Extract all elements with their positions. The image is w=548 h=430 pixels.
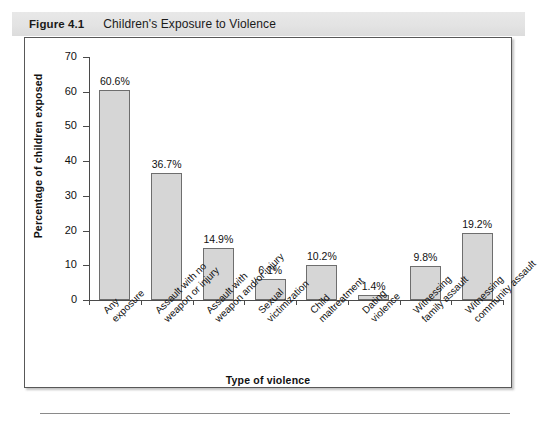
figure-title: Children's Exposure to Violence (103, 17, 276, 31)
y-axis-line (89, 57, 90, 300)
bar-value-label: 19.2% (462, 218, 492, 230)
x-axis-tick (89, 300, 90, 305)
y-axis-tick (83, 265, 89, 266)
y-axis-tick-label: 50 (29, 119, 77, 131)
figure-caption-band: Figure 4.1 Children's Exposure to Violen… (12, 12, 525, 36)
bar-value-label: 10.2% (307, 250, 337, 262)
y-axis-tick-label: 10 (29, 258, 77, 270)
bar (151, 173, 182, 300)
y-axis-tick-label: 20 (29, 224, 77, 236)
y-axis-tick (83, 57, 89, 58)
bar (99, 90, 130, 300)
bar-value-label: 36.7% (152, 158, 182, 170)
bar-value-label: 9.8% (413, 251, 437, 263)
figure-box: Percentage of children exposed 010203040… (24, 37, 512, 388)
y-axis-tick-label: 70 (29, 50, 77, 62)
y-axis-tick-label: 40 (29, 154, 77, 166)
y-axis-tick-label: 0 (29, 293, 77, 305)
bar-value-label: 14.9% (203, 233, 233, 245)
page-divider-rule (40, 413, 510, 414)
y-axis-tick (83, 161, 89, 162)
y-axis-tick (83, 126, 89, 127)
y-axis-tick (83, 92, 89, 93)
bar-value-label: 60.6% (100, 75, 130, 87)
y-axis-tick (83, 196, 89, 197)
x-axis-title: Type of violence (25, 374, 511, 386)
y-axis-tick-label: 60 (29, 85, 77, 97)
y-axis-tick (83, 231, 89, 232)
y-axis-tick-label: 30 (29, 189, 77, 201)
bar-chart-plot-area: Percentage of children exposed 010203040… (25, 38, 511, 387)
